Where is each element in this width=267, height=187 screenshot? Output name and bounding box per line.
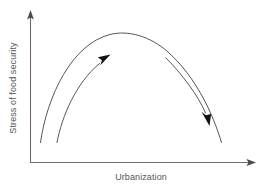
outer-arc-curve: [41, 33, 222, 142]
inverted-u-diagram: Urbanization Stress of food security: [0, 0, 267, 187]
x-axis-label: Urbanization: [115, 172, 167, 182]
y-axis: [27, 10, 34, 163]
inner-arc-falling-curve: [166, 58, 206, 113]
y-axis-label: Stress of food security: [8, 42, 18, 134]
falling-phase-arrow: [166, 58, 211, 126]
rising-phase-arrow: [57, 55, 111, 143]
falling-arrowhead-icon: [202, 112, 212, 126]
x-axis: [30, 159, 256, 166]
figure-canvas: Urbanization Stress of food security: [0, 0, 267, 187]
